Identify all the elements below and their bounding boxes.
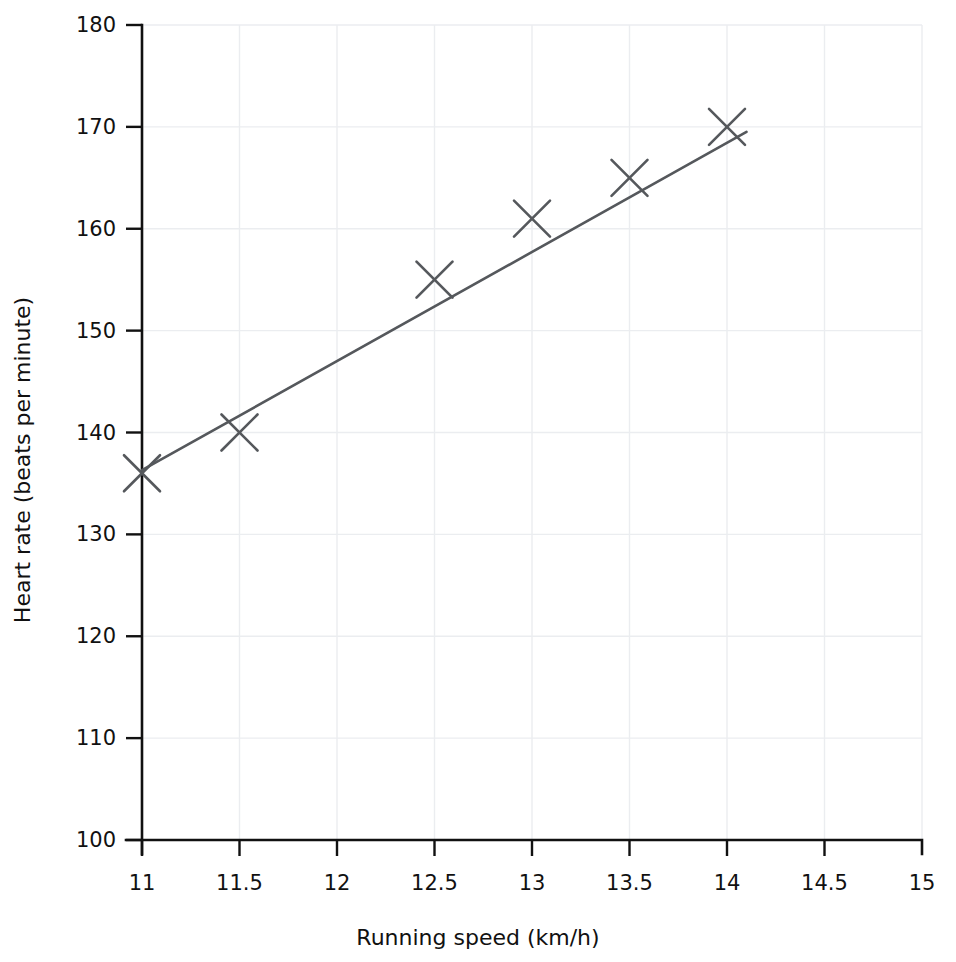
x-tick-label: 15 (909, 871, 936, 895)
chart-container: 100110120130140150160170180 1111.51212.5… (0, 0, 956, 962)
y-tick-label: 100 (76, 828, 116, 852)
x-tick-label: 11.5 (216, 871, 263, 895)
scatter-plot-heart-rate-vs-running-speed: 100110120130140150160170180 1111.51212.5… (0, 0, 956, 962)
y-tick-label: 160 (76, 217, 116, 241)
x-tick-label: 14.5 (801, 871, 848, 895)
y-tick-label: 130 (76, 522, 116, 546)
y-tick-label: 170 (76, 115, 116, 139)
x-tick-label: 13 (519, 871, 546, 895)
data-series (124, 109, 747, 491)
y-axis-title: Heart rate (beats per minute) (10, 297, 35, 623)
x-tick-label: 14 (714, 871, 741, 895)
y-tick-label: 150 (76, 319, 116, 343)
x-axis-ticks: 1111.51212.51313.51414.515 (129, 840, 936, 895)
y-tick-label: 110 (76, 726, 116, 750)
y-axis-ticks: 100110120130140150160170180 (76, 13, 142, 852)
y-tick-label: 140 (76, 421, 116, 445)
gridlines (142, 25, 922, 840)
y-tick-label: 180 (76, 13, 116, 37)
x-tick-label: 13.5 (606, 871, 653, 895)
x-tick-label: 11 (129, 871, 156, 895)
line-of-best-fit (142, 132, 747, 470)
y-tick-label: 120 (76, 624, 116, 648)
x-tick-label: 12.5 (411, 871, 458, 895)
x-tick-label: 12 (324, 871, 351, 895)
x-axis-title: Running speed (km/h) (356, 925, 599, 950)
x-axis-line (126, 840, 922, 854)
